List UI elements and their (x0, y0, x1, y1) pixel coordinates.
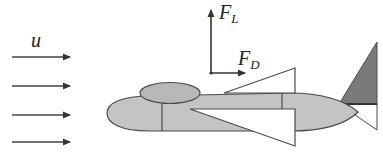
canopy (140, 83, 200, 104)
flow-velocity-label: u (31, 30, 41, 50)
force-origin-dot (209, 71, 212, 74)
drag-force-label: FD (238, 48, 260, 71)
aircraft-diagram: u FL FD (0, 0, 383, 161)
lift-label-sub: L (231, 11, 238, 26)
lift-force-label: FL (219, 2, 238, 25)
lift-label-main: F (219, 1, 231, 23)
drag-label-sub: D (250, 57, 259, 72)
diagram-canvas (0, 0, 383, 161)
drag-label-main: F (238, 47, 250, 69)
flow-arrows (12, 57, 70, 142)
vertical-stabilizer (339, 42, 377, 104)
